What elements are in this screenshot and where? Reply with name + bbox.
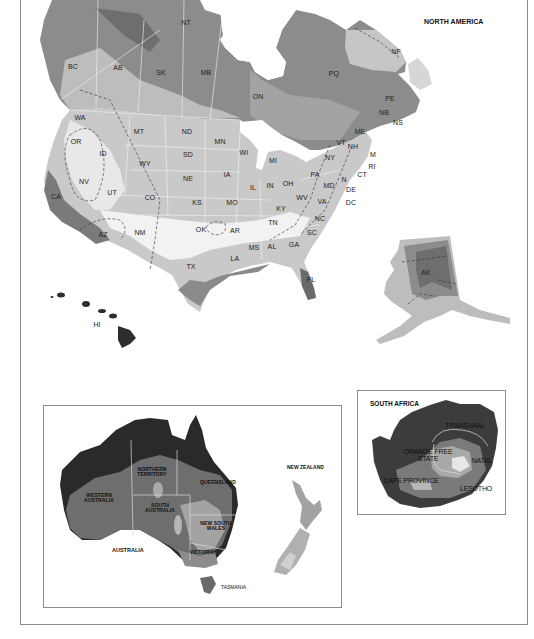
australia-inset bbox=[43, 405, 342, 608]
australia-state-label: QUEENSLAND bbox=[200, 480, 236, 485]
region-label: MN bbox=[214, 138, 225, 145]
region-label: NM bbox=[134, 229, 145, 236]
region-label: RI bbox=[368, 163, 375, 170]
region-label: M bbox=[370, 151, 376, 158]
new-zealand-title: NEW ZEALAND bbox=[287, 464, 324, 470]
region-label: MO bbox=[226, 199, 237, 206]
region-label: IA bbox=[224, 171, 231, 178]
region-label: ND bbox=[182, 128, 192, 135]
region-label: MB bbox=[201, 69, 212, 76]
region-label: NF bbox=[391, 48, 401, 55]
region-label: AZ bbox=[98, 231, 107, 238]
region-label: DC bbox=[346, 199, 356, 206]
tasmania-title: TASMANIA bbox=[221, 584, 246, 590]
region-label: PE bbox=[385, 95, 395, 102]
region-label: NB bbox=[379, 109, 389, 116]
region-label: ME bbox=[355, 128, 366, 135]
region-label: GA bbox=[289, 241, 299, 248]
south-africa-province-label: NATAL bbox=[472, 457, 493, 464]
newfoundland bbox=[408, 58, 432, 90]
florida-zone bbox=[300, 268, 316, 300]
region-label: NH bbox=[348, 143, 358, 150]
region-label: DE bbox=[346, 186, 356, 193]
region-label: IN bbox=[266, 182, 273, 189]
region-label: WV bbox=[296, 194, 307, 201]
south-africa-title: SOUTH AFRICA bbox=[370, 400, 419, 407]
region-label: NS bbox=[393, 119, 403, 126]
region-label: HI bbox=[93, 321, 100, 328]
region-label: CT bbox=[357, 171, 367, 178]
region-label: N bbox=[341, 176, 346, 183]
australia-state-label: SOUTH AUSTRALIA bbox=[145, 503, 175, 513]
region-label: AB bbox=[113, 64, 123, 71]
region-label: WA bbox=[74, 114, 85, 121]
region-label: ID bbox=[99, 150, 106, 157]
region-label: AK bbox=[421, 269, 431, 276]
region-label: NT bbox=[181, 19, 191, 26]
region-label: OR bbox=[71, 138, 82, 145]
region-label: LA bbox=[231, 255, 240, 262]
region-label: IL bbox=[250, 184, 256, 191]
region-label: WY bbox=[139, 160, 150, 167]
region-label: SD bbox=[183, 151, 193, 158]
region-label: AR bbox=[230, 227, 240, 234]
alaska-map bbox=[376, 236, 510, 344]
region-label: TN bbox=[268, 219, 278, 226]
region-label: VA bbox=[317, 198, 326, 205]
region-label: VT bbox=[336, 139, 345, 146]
region-label: BC bbox=[68, 63, 78, 70]
region-label: MT bbox=[134, 128, 144, 135]
region-label: NV bbox=[79, 178, 89, 185]
south-africa-province-label: TRANSVAAL bbox=[445, 422, 484, 429]
region-label: NE bbox=[183, 175, 193, 182]
region-label: SK bbox=[156, 69, 166, 76]
region-label: NC bbox=[315, 215, 325, 222]
australia-state-label: NEW SOUTH WALES bbox=[200, 521, 231, 531]
region-label: MD bbox=[323, 182, 334, 189]
north-america-title: NORTH AMERICA bbox=[424, 18, 483, 25]
region-label: CO bbox=[145, 194, 156, 201]
australia-state-label: WESTERN AUSTRALIA bbox=[84, 493, 114, 503]
region-label: MI bbox=[269, 157, 277, 164]
south-africa-province-label: ORANGE FREE STATE bbox=[404, 448, 453, 462]
region-label: KY bbox=[276, 205, 286, 212]
region-label: PQ bbox=[329, 70, 339, 77]
region-label: FL bbox=[307, 276, 315, 283]
region-label: CA bbox=[51, 193, 61, 200]
south-africa-province-label: LESOTHO bbox=[460, 485, 492, 492]
region-label: OH bbox=[283, 180, 294, 187]
region-label: NY bbox=[325, 154, 335, 161]
region-label: SC bbox=[307, 229, 317, 236]
south-africa-province-label: CAPE PROVINCE bbox=[384, 477, 439, 484]
australia-state-label: NORTHERN TERRITORY bbox=[137, 467, 167, 477]
region-label: WI bbox=[240, 149, 249, 156]
region-label: ON bbox=[253, 93, 264, 100]
region-label: AL bbox=[268, 243, 277, 250]
north-america-map bbox=[40, 0, 510, 348]
region-label: TX bbox=[186, 263, 195, 270]
region-label: OK bbox=[196, 226, 206, 233]
region-label: MS bbox=[249, 244, 260, 251]
region-label: KS bbox=[192, 199, 202, 206]
region-label: UT bbox=[107, 189, 117, 196]
australia-state-label: VICTORIA bbox=[190, 550, 215, 555]
region-label: PA bbox=[310, 171, 319, 178]
australia-title: AUSTRALIA bbox=[112, 547, 144, 553]
